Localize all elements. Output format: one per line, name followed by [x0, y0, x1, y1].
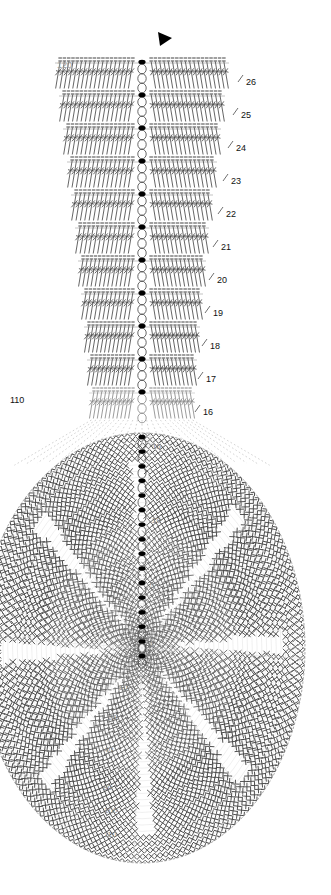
round-number-label: 5	[150, 581, 155, 590]
slip-stitch-dot	[138, 93, 145, 98]
slip-stitch-dot	[138, 390, 145, 395]
slip-stitch-dot	[138, 291, 145, 296]
stitch-row	[63, 124, 221, 159]
center-chain-column	[138, 196, 146, 225]
stitch-row	[78, 256, 206, 291]
stitch-row	[89, 388, 195, 423]
stitch-count-label-110: 110	[10, 395, 24, 405]
slip-stitch-dot	[138, 60, 145, 65]
row-number-label: 21	[221, 242, 231, 252]
center-chain-column	[138, 262, 146, 291]
center-chain-column	[138, 361, 146, 390]
round-number-label: 15	[152, 442, 161, 451]
slip-stitch-dot	[138, 258, 145, 263]
round-number-label: 1	[150, 640, 155, 649]
row-number-label: 26	[246, 77, 256, 87]
stitch-row	[81, 289, 203, 324]
center-chain-column	[138, 163, 146, 192]
row-number-label: 18	[210, 341, 220, 351]
row-number-label: 20	[217, 275, 227, 285]
stitch-rows-layer	[55, 58, 229, 423]
crochet-chart-root: 2625242322212019181716120110151051102040…	[0, 0, 331, 895]
round-number-label: 10	[152, 516, 161, 525]
stitch-count-label-120: 120	[57, 60, 72, 70]
row-number-label: 25	[241, 110, 251, 120]
stitch-row	[84, 322, 200, 357]
row-number-label: 23	[231, 176, 241, 186]
round-number-label: 100	[104, 806, 118, 815]
row-number-label: 19	[213, 308, 223, 318]
center-chain-column	[138, 295, 146, 324]
slip-stitch-dot	[138, 159, 145, 164]
center-chain-column	[138, 328, 146, 357]
round-number-label: 80	[103, 783, 112, 792]
row-number-label: 16	[203, 407, 213, 417]
start-arrow-marker	[158, 32, 172, 46]
stitch-row	[59, 91, 225, 126]
stitch-row	[75, 223, 209, 258]
center-chain-column	[138, 229, 146, 258]
center-chain-column	[138, 394, 146, 423]
stitch-row	[67, 157, 217, 192]
center-chain-column	[138, 64, 146, 93]
center-chain-column	[138, 97, 146, 126]
round-number-label: 40	[104, 745, 113, 754]
round-number-label: 110	[104, 830, 117, 839]
round-number-label: 20	[108, 713, 117, 722]
slip-stitch-dot	[138, 192, 145, 197]
slip-stitch-dot	[138, 324, 145, 329]
center-chain-column	[138, 130, 146, 159]
row-number-label: 22	[226, 209, 236, 219]
start-arrow-marker	[158, 32, 172, 46]
slip-stitch-dot	[138, 225, 145, 230]
row-number-label: 17	[206, 374, 216, 384]
row-number-label: 24	[236, 143, 246, 153]
stitch-row	[87, 355, 197, 390]
stitch-row	[71, 190, 213, 225]
stitch-row	[55, 58, 229, 93]
pattern-diagram: 2625242322212019181716120110151051102040…	[0, 0, 331, 895]
slip-stitch-dot	[138, 357, 145, 362]
round-number-label: 10	[119, 683, 128, 692]
slip-stitch-dot	[138, 126, 145, 131]
